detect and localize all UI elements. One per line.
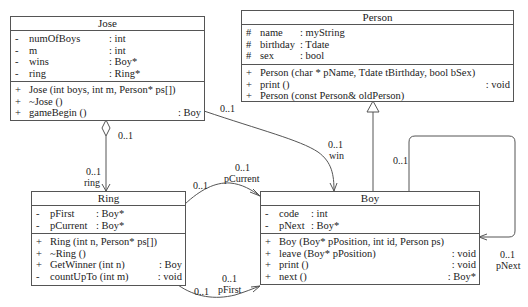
jose-boy-source-mult: 0..1 (220, 104, 235, 114)
boy-self-target-mult: 0..1 (500, 250, 515, 260)
operation-row: +~Ring () (36, 248, 182, 260)
aggregation-jose-ring (102, 120, 110, 191)
operation-row: +Boy (Boy* pPosition, int id, Person ps) (265, 236, 476, 248)
operation-row: +Person (const Person& oldPerson) (246, 90, 510, 102)
class-ring-attributes: -pFirst: Boy* -pCurrent: Boy* (32, 206, 185, 233)
attribute-row: -ring: Ring* (15, 68, 201, 80)
operation-row: +GetWinner (int n): Boy (36, 259, 182, 271)
ring-boy-pcurrent-source-mult: 0..1 (193, 181, 208, 191)
class-jose-operations: +Jose (int boys, int m, Person* ps[]) +~… (11, 81, 204, 121)
jose-ring-target-role: ring (84, 178, 100, 188)
attribute-row: -numOfBoys: int (15, 33, 201, 45)
jose-ring-target-mult: 0..1 (86, 167, 101, 177)
ring-boy-pfirst-target-mult: 0..1 (222, 274, 237, 284)
ring-boy-pfirst-source-mult: 0..1 (194, 287, 209, 297)
class-person-operations: +Person (char * pName, Tdate tBirthday, … (242, 64, 513, 104)
attribute-row: -wins: Boy* (15, 56, 201, 68)
generalization-boy-person (367, 101, 379, 191)
attribute-row: #name: myString (246, 27, 510, 39)
class-boy-attributes: -code: int -pNext: Boy* (261, 206, 479, 233)
attribute-row: -pCurrent: Boy* (36, 220, 182, 232)
ring-boy-pfirst-target-role: pFirst (218, 285, 241, 295)
operation-row: +~Jose () (15, 96, 201, 108)
operation-row: +print (): void (246, 79, 510, 91)
jose-boy-target-mult: 0..1 (328, 140, 343, 150)
ring-boy-pcurrent-target-role: pCurrent (224, 174, 260, 184)
class-jose-name: Jose (11, 17, 204, 31)
operation-row: +Person (char * pName, Tdate tBirthday, … (246, 67, 510, 79)
attribute-row: -m: int (15, 45, 201, 57)
jose-boy-target-role: win (329, 151, 344, 161)
operation-row: -countUpTo (int m): void (36, 271, 182, 283)
operation-row: +Ring (int n, Person* ps[]) (36, 236, 182, 248)
attribute-row: #sex: bool (246, 50, 510, 62)
operation-row: +leave (Boy* pPosition): void (265, 248, 476, 260)
operation-row: +Jose (int boys, int m, Person* ps[]) (15, 84, 201, 96)
operation-row: +print (): void (265, 259, 476, 271)
ring-boy-pcurrent-target-mult: 0..1 (235, 163, 250, 173)
attribute-row: #birthday: Tdate (246, 39, 510, 51)
class-boy-operations: +Boy (Boy* pPosition, int id, Person ps)… (261, 233, 479, 284)
class-person-name: Person (242, 11, 513, 25)
boy-self-source-mult: 0..1 (393, 156, 408, 166)
attribute-row: -pNext: Boy* (265, 220, 476, 232)
class-ring-name: Ring (32, 192, 185, 206)
class-boy[interactable]: Boy -code: int -pNext: Boy* +Boy (Boy* p… (260, 191, 480, 285)
class-jose[interactable]: Jose -numOfBoys: int -m: int -wins: Boy*… (10, 16, 205, 121)
class-ring[interactable]: Ring -pFirst: Boy* -pCurrent: Boy* +Ring… (31, 191, 186, 286)
class-person[interactable]: Person #name: myString #birthday: Tdate … (241, 10, 514, 102)
attribute-row: -code: int (265, 208, 476, 220)
jose-ring-source-mult: 0..1 (118, 131, 133, 141)
class-boy-name: Boy (261, 192, 479, 206)
class-jose-attributes: -numOfBoys: int -m: int -wins: Boy* -rin… (11, 31, 204, 81)
boy-self-target-role: pNext (496, 261, 520, 271)
class-ring-operations: +Ring (int n, Person* ps[]) +~Ring () +G… (32, 233, 185, 284)
attribute-row: -pFirst: Boy* (36, 208, 182, 220)
operation-row: +next (): Boy* (265, 271, 476, 283)
operation-row: +gameBegin (): Boy (15, 107, 201, 119)
class-person-attributes: #name: myString #birthday: Tdate #sex: b… (242, 25, 513, 64)
